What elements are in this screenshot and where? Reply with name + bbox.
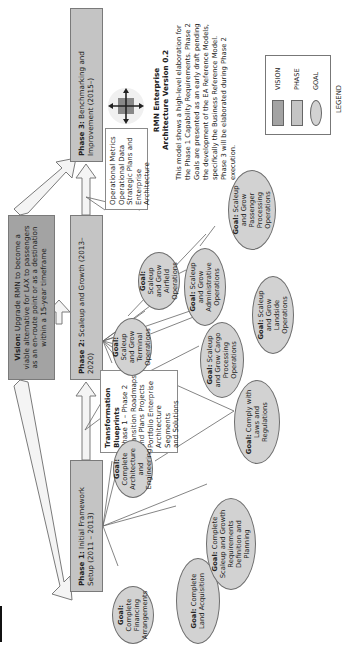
legend-item-phase: PHASE (291, 69, 303, 127)
goal-prefix: Goal: (190, 609, 198, 629)
legend-item-vision: VISION (272, 68, 284, 126)
goal-prefix: Goal: (211, 552, 219, 572)
goal-prefix: Goal: (232, 215, 240, 235)
goal-requirements-planning: Goal: Complete Scaleup and Growth Requir… (206, 498, 256, 590)
goal-text: Scaleup and Grow Airfield Operations (147, 262, 179, 299)
note-line: Transition Roadmaps (130, 375, 139, 448)
arrow-phase1-to-phase2 (76, 382, 96, 460)
ea-roadmap-diagram: Vision: Upgrade RMN to become a viable a… (0, 0, 347, 646)
phase-1-box: Phase 1: Initial Framework Setup (2011 –… (70, 460, 103, 592)
goal-financing: Goal: Complete Financing Arrangements (112, 586, 154, 644)
vision-box: Vision: Upgrade RMN to become a viable a… (8, 215, 55, 380)
goal-architecture-engineering: Goal: Complete Architecture and Engineer… (113, 440, 153, 498)
arrow-vision-to-phase3 (14, 158, 76, 215)
legend-item-goal: GOAL (310, 72, 322, 126)
note-line: Enterprise Architecture (135, 133, 152, 205)
transformation-title: Transformation Blueprints (104, 375, 121, 448)
goal-landside-operations: Goal: Scaleup and Grow Landside Operatio… (252, 276, 294, 354)
goal-text: Complete Financing Arrangements (125, 591, 149, 639)
legend-label: PHASE (293, 69, 301, 91)
legend-label: GOAL (312, 72, 320, 90)
goal-prefix: Goal: (206, 365, 214, 385)
title-line-1: RMN Enterprise (152, 20, 161, 180)
phase-2-label: Phase 2: (77, 339, 86, 374)
goal-airfield-operations: Goal: Scaleup and Grow Airfield Operatio… (138, 252, 180, 310)
note-line: Operational Data (118, 133, 127, 205)
goal-text: Scaleup and Grow Terminal Operations (120, 328, 152, 365)
goal-passenger-processing: Goal: Scaleup and Grow Passenger Process… (228, 170, 276, 250)
goal-prefix: Goal: (139, 271, 147, 291)
description-block: RMN Enterprise Architecture Version 0.2 … (152, 20, 238, 180)
airport-compass-logo-icon (106, 86, 146, 126)
legend-label: VISION (274, 68, 282, 90)
note-line: and Solutions (172, 375, 181, 448)
goal-text: Complete Architecture and Engineering (121, 448, 153, 490)
edge-line (0, 606, 2, 642)
arrow-phase2-to-phase3 (76, 164, 96, 215)
diagram-title: RMN Enterprise Architecture Version 0.2 (152, 20, 171, 180)
goal-terminal-operations: Goal: Scaleup and Grow Terminal Operatio… (112, 318, 152, 376)
goal-swatch (310, 100, 322, 126)
goal-administrative-operations: Goal: Scaleup and Grow Administrative Op… (184, 248, 226, 326)
phase-3-label: Phase 3: (77, 121, 86, 156)
vision-label: Vision: (13, 333, 22, 361)
goal-prefix: Goal: (112, 337, 120, 357)
goal-prefix: Goal: (257, 320, 265, 340)
description-text: This model shows a high-level elaboratio… (175, 20, 238, 180)
arrow-vision-to-phase1 (14, 380, 72, 600)
goal-cargo-processing: Goal: Scaleup and Grow Cargo Processing … (200, 322, 244, 398)
goal-prefix: Goal: (117, 605, 125, 625)
legend: VISION PHASE GOAL (265, 55, 331, 135)
title-line-2: Architecture Version 0.2 (161, 20, 170, 180)
note-line: Architecture Segments (155, 375, 172, 448)
goal-prefix: Goal: (189, 292, 197, 312)
phase-swatch (291, 100, 303, 126)
legend-caption: LEGEND (335, 85, 343, 113)
note-line: Strategic Plans and (126, 133, 135, 205)
phase-2-box: Phase 2: Scaleup and Growth (2013–2020) (70, 215, 103, 380)
note-line: Portfolio Enterprise (147, 375, 156, 448)
operational-metrics-note: Operational Metrics Operational Data Str… (105, 128, 148, 210)
note-line: Phase 1 – Phase 2 (121, 375, 130, 448)
vision-swatch (272, 100, 284, 126)
goal-comply-laws: Goal: Comply with Laws and Regulations (234, 380, 280, 464)
goal-prefix: Goal: (113, 459, 121, 479)
note-line: and Plans Projects (138, 375, 147, 448)
goal-prefix: Goal: (245, 434, 253, 454)
note-line: Operational Metrics (109, 133, 118, 205)
phase-1-label: Phase 1: (77, 551, 86, 586)
phase-3-box: Phase 3: Benchmarking and Improvement (2… (70, 8, 103, 162)
